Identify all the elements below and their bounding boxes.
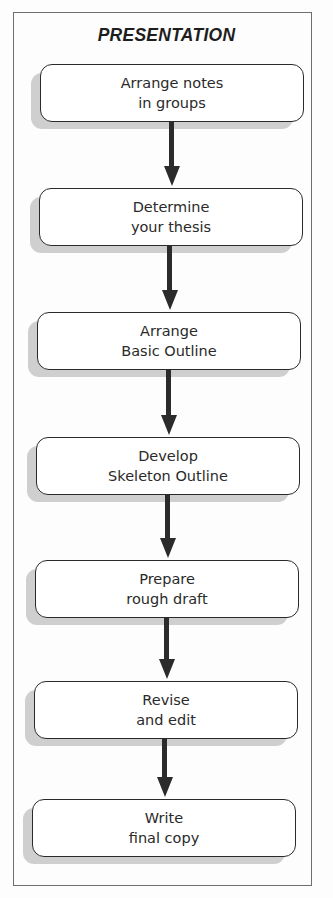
arrow-shaft xyxy=(166,370,171,417)
arrow-shaft xyxy=(164,618,169,661)
arrow-down-icon xyxy=(164,122,180,186)
arrow-head xyxy=(160,538,176,558)
step-label-line-1: Revise xyxy=(142,690,189,710)
flow-step: Arrange notesin groups xyxy=(40,64,304,122)
flow-step: Reviseand edit xyxy=(34,681,298,739)
step-label-line-1: Arrange notes xyxy=(121,73,224,93)
step-box: ArrangeBasic Outline xyxy=(37,312,301,370)
arrow-down-icon xyxy=(162,246,178,310)
step-label-line-2: final copy xyxy=(129,828,199,848)
step-box: Determineyour thesis xyxy=(39,188,303,246)
flow-step: Writefinal copy xyxy=(32,799,296,857)
step-box: DevelopSkeleton Outline xyxy=(36,437,300,495)
arrow-shaft xyxy=(167,246,172,292)
step-label-line-1: Write xyxy=(145,808,183,828)
step-label-line-2: in groups xyxy=(138,93,206,113)
step-box: Arrange notesin groups xyxy=(40,64,304,122)
step-label-line-2: Skeleton Outline xyxy=(108,466,228,486)
step-label-line-1: Determine xyxy=(133,197,210,217)
step-box: Reviseand edit xyxy=(34,681,298,739)
step-box: Preparerough draft xyxy=(35,560,299,618)
flow-step: Preparerough draft xyxy=(35,560,299,618)
step-label-line-1: Develop xyxy=(138,446,198,466)
arrow-down-icon xyxy=(161,370,177,435)
arrow-head xyxy=(164,166,180,186)
arrow-down-icon xyxy=(160,495,176,558)
flow-step: Determineyour thesis xyxy=(39,188,303,246)
arrow-down-icon xyxy=(159,618,175,679)
arrow-shaft xyxy=(169,122,174,168)
arrow-head xyxy=(161,415,177,435)
diagram-title: PRESENTATION xyxy=(13,24,319,46)
step-box: Writefinal copy xyxy=(32,799,296,857)
step-label-line-2: and edit xyxy=(136,710,196,730)
arrow-shaft xyxy=(165,495,170,540)
arrow-head xyxy=(157,777,173,797)
flow-step: ArrangeBasic Outline xyxy=(37,312,301,370)
arrow-down-icon xyxy=(157,739,173,797)
step-label-line-1: Prepare xyxy=(139,569,195,589)
arrow-head xyxy=(162,290,178,310)
step-label-line-2: rough draft xyxy=(126,589,207,609)
flow-step: DevelopSkeleton Outline xyxy=(36,437,300,495)
arrow-shaft xyxy=(162,739,167,779)
step-label-line-2: your thesis xyxy=(131,217,211,237)
arrow-head xyxy=(159,659,175,679)
step-label-line-2: Basic Outline xyxy=(121,341,216,361)
step-label-line-1: Arrange xyxy=(140,321,198,341)
